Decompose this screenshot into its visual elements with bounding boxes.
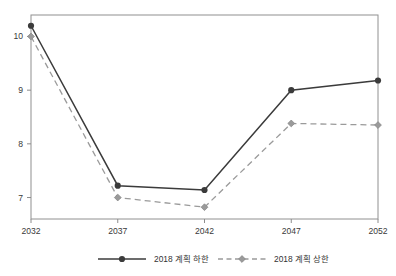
series-lower-bound [28,23,381,193]
data-point-marker [288,120,295,127]
legend-label: 2018 계획 상한 [274,254,329,264]
series-upper-bound [28,33,382,211]
data-point-marker [119,256,125,262]
data-point-marker [28,33,35,40]
series-line [31,26,378,190]
chart-legend: 2018 계획 하한2018 계획 상한 [98,254,329,264]
y-tick-label: 7 [18,193,23,203]
legend-item-lower-bound[interactable]: 2018 계획 하한 [98,254,209,264]
data-point-marker [375,77,381,83]
x-tick-label: 2037 [108,226,127,236]
data-point-marker [239,256,246,263]
series-layer [28,23,382,211]
data-point-marker [28,23,34,29]
line-chart: 78910 20322037204220472052 2018 계획 하한201… [0,0,396,276]
data-point-marker [201,187,207,193]
x-tick-label: 2052 [368,226,387,236]
x-axis: 20322037204220472052 [21,219,387,236]
legend-label: 2018 계획 하한 [154,254,209,264]
data-point-marker [114,194,121,201]
y-tick-label: 9 [18,85,23,95]
x-tick-label: 2042 [195,226,214,236]
chart-container: 78910 20322037204220472052 2018 계획 하한201… [0,0,396,276]
data-point-marker [115,183,121,189]
y-axis: 78910 [13,31,31,202]
legend-item-upper-bound[interactable]: 2018 계획 상한 [218,254,329,264]
y-tick-label: 10 [13,31,23,41]
x-tick-label: 2032 [21,226,40,236]
data-point-marker [375,122,382,129]
x-tick-label: 2047 [282,226,301,236]
y-tick-label: 8 [18,139,23,149]
data-point-marker [288,87,294,93]
